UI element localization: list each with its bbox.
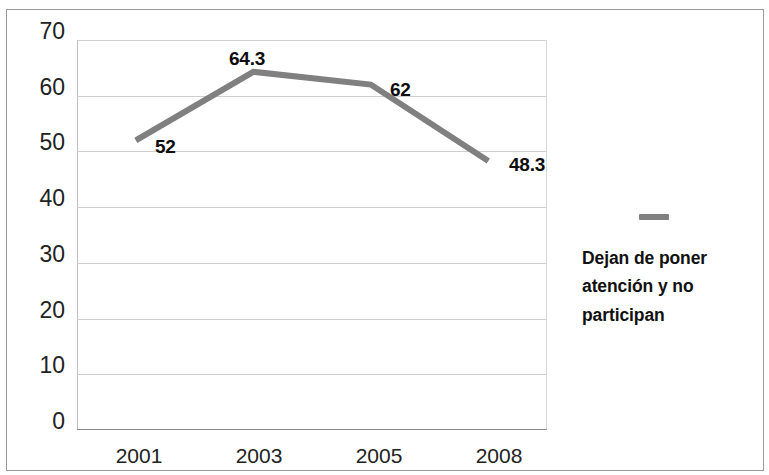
data-label-2008: 48.3 — [509, 155, 545, 174]
y-axis-tick-20: 20 — [7, 298, 65, 321]
plot-area: 52 64.3 62 48.3 — [77, 40, 547, 430]
legend-label-line-3: participan — [582, 301, 754, 329]
y-axis-tick-0: 0 — [7, 410, 65, 433]
y-axis-tick-50: 50 — [7, 131, 65, 154]
x-axis-tick-2003: 2003 — [214, 445, 304, 466]
series-line-dejan-de-poner-atencion — [77, 40, 547, 430]
chart-screenshot: 70 60 50 40 30 20 10 0 52 64 — [0, 0, 769, 475]
x-axis-tick-2005: 2005 — [334, 445, 424, 466]
x-axis-tick-2008: 2008 — [454, 445, 544, 466]
x-axis-tick-2001: 2001 — [94, 445, 184, 466]
y-axis-tick-40: 40 — [7, 187, 65, 210]
legend-line-marker-icon — [639, 214, 669, 220]
data-label-2003: 64.3 — [229, 49, 265, 68]
chart-legend: Dejan de poner atención y no participan — [582, 205, 762, 329]
y-axis-tick-70: 70 — [7, 20, 65, 43]
y-axis-tick-60: 60 — [7, 75, 65, 98]
y-axis-tick-30: 30 — [7, 242, 65, 265]
legend-label-line-1: Dejan de poner — [582, 244, 754, 272]
chart-frame: 70 60 50 40 30 20 10 0 52 64 — [6, 9, 764, 471]
y-axis-tick-10: 10 — [7, 354, 65, 377]
legend-entry-label: Dejan de poner atención y no participan — [582, 244, 754, 329]
legend-entry-row — [582, 205, 762, 227]
legend-label-line-2: atención y no — [582, 272, 754, 300]
data-label-2001: 52 — [155, 137, 176, 156]
data-label-2005: 62 — [390, 80, 411, 99]
